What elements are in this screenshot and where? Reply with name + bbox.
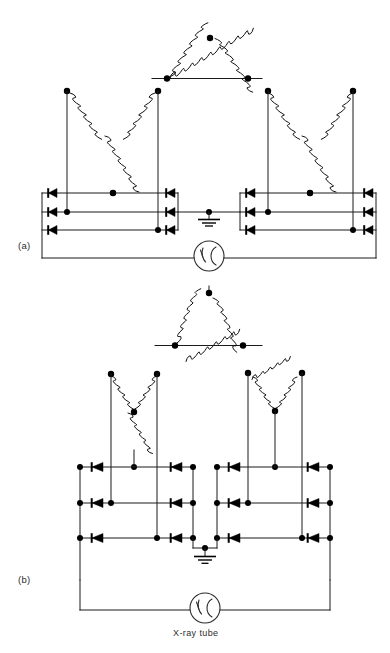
diode-icon: [364, 225, 373, 235]
panel-b-rectifier-left: [77, 462, 196, 580]
diode-icon: [48, 207, 57, 217]
junction-dot-icon: [206, 290, 212, 296]
junction-dot-icon: [172, 342, 178, 348]
figure-root: (a): [0, 0, 390, 653]
diode-icon: [246, 188, 255, 198]
junction-dot-icon: [190, 464, 196, 470]
diode-icon: [308, 498, 319, 508]
junction-dot-icon: [207, 35, 213, 41]
junction-dot-icon: [164, 75, 170, 81]
panel-b-label: (b): [18, 574, 31, 585]
earth-ground-icon: [198, 220, 220, 227]
diode-icon: [308, 533, 319, 543]
diode-icon: [171, 462, 182, 472]
junction-dot-icon: [327, 464, 333, 470]
diode-icon: [364, 207, 373, 217]
junction-dot-icon: [214, 464, 220, 470]
junction-dot-icon: [327, 500, 333, 506]
diode-icon: [48, 225, 57, 235]
panel-a-secondary-left-wye: [64, 88, 161, 230]
earth-ground-icon: [194, 557, 216, 564]
junction-dot-icon: [154, 535, 160, 541]
junction-dot-icon: [350, 227, 356, 233]
junction-dot-icon: [108, 500, 114, 506]
junction-dot-icon: [110, 190, 116, 196]
junction-dot-icon: [299, 535, 305, 541]
junction-dot-icon: [245, 75, 251, 81]
diode-icon: [308, 462, 319, 472]
diode-icon: [171, 498, 182, 508]
panel-b-ground: [193, 538, 217, 563]
diode-icon: [92, 533, 103, 543]
junction-dot-icon: [131, 409, 137, 415]
circuit-diagram: (a): [0, 0, 390, 653]
junction-dot-icon: [265, 209, 271, 215]
diode-icon: [166, 188, 175, 198]
panel-a-xray-tube: [42, 241, 376, 271]
junction-dot-icon: [327, 535, 333, 541]
panel-a: (a): [18, 23, 376, 271]
diode-icon: [166, 225, 175, 235]
junction-dot-icon: [155, 227, 161, 233]
diode-icon: [364, 188, 373, 198]
diode-icon: [246, 225, 255, 235]
diode-icon: [171, 533, 182, 543]
junction-dot-icon: [240, 342, 246, 348]
diode-icon: [48, 188, 57, 198]
diode-icon: [229, 462, 240, 472]
panel-b-secondary-right-delta: [134, 357, 305, 538]
panel-a-secondary-right-wye: [265, 88, 356, 230]
diode-icon: [92, 462, 103, 472]
panel-b-rectifier-right: [214, 462, 333, 580]
junction-dot-icon: [307, 190, 313, 196]
diode-icon: [229, 533, 240, 543]
panel-a-label: (a): [18, 240, 31, 251]
diode-icon: [229, 498, 240, 508]
junction-dot-icon: [190, 500, 196, 506]
xray-tube-label: X-ray tube: [173, 628, 219, 638]
panel-b-xray-tube: X-ray tube: [80, 580, 330, 638]
junction-dot-icon: [245, 500, 251, 506]
diode-icon: [166, 207, 175, 217]
junction-dot-icon: [64, 209, 70, 215]
panel-b: X-ray tube (b): [18, 286, 333, 638]
junction-dot-icon: [214, 500, 220, 506]
panel-b-primary-delta: [155, 286, 262, 362]
junction-dot-icon: [77, 464, 83, 470]
panel-a-ground: [178, 209, 240, 226]
junction-dot-icon: [77, 535, 83, 541]
diode-icon: [246, 207, 255, 217]
diode-icon: [92, 498, 103, 508]
panel-a-primary-delta: [152, 23, 262, 92]
panel-a-rectifier-right: [240, 188, 376, 258]
junction-dot-icon: [77, 500, 83, 506]
